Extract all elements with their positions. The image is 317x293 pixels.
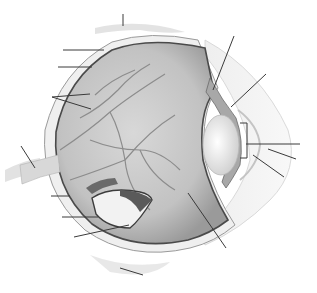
eye-diagram (0, 0, 317, 293)
eye-illustration (0, 0, 317, 293)
lens (203, 115, 239, 175)
